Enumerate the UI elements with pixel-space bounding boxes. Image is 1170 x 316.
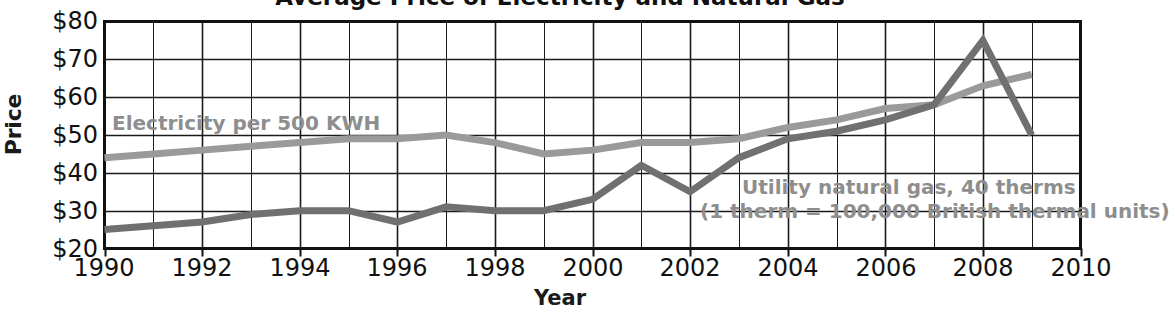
series-label-natural-gas-line2: (1 therm = 100,000 British thermal units… — [700, 200, 1170, 222]
series-label-natural-gas-line1: Utility natural gas, 40 therms — [742, 176, 1076, 198]
series-label-electricity: Electricity per 500 KWH — [112, 112, 380, 134]
